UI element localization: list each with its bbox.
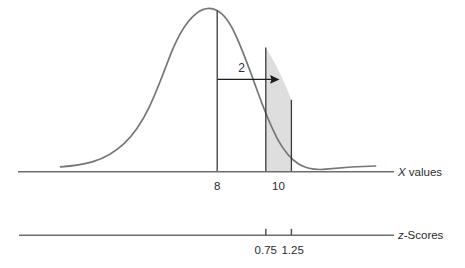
z-axis-title: z-Scores xyxy=(397,229,444,241)
normal-distribution-figure: 8 10 0.75 1.25 2 X values z-Scores xyxy=(0,0,465,268)
x-axis-title-rest-part: values xyxy=(406,166,443,178)
distance-annotation-label: 2 xyxy=(238,61,245,75)
z-axis-title-rest-part: -Scores xyxy=(404,229,444,241)
x-tick-label-10: 10 xyxy=(272,180,285,192)
z-tick-label-125: 1.25 xyxy=(281,244,303,256)
normal-curve xyxy=(61,9,376,170)
x-tick-label-8: 8 xyxy=(214,180,220,192)
z-tick-label-075: 0.75 xyxy=(255,244,277,256)
x-axis-title: X values xyxy=(397,166,442,178)
distribution-chart: 8 10 0.75 1.25 2 X values z-Scores xyxy=(0,0,465,268)
shaded-area-region xyxy=(266,48,292,171)
